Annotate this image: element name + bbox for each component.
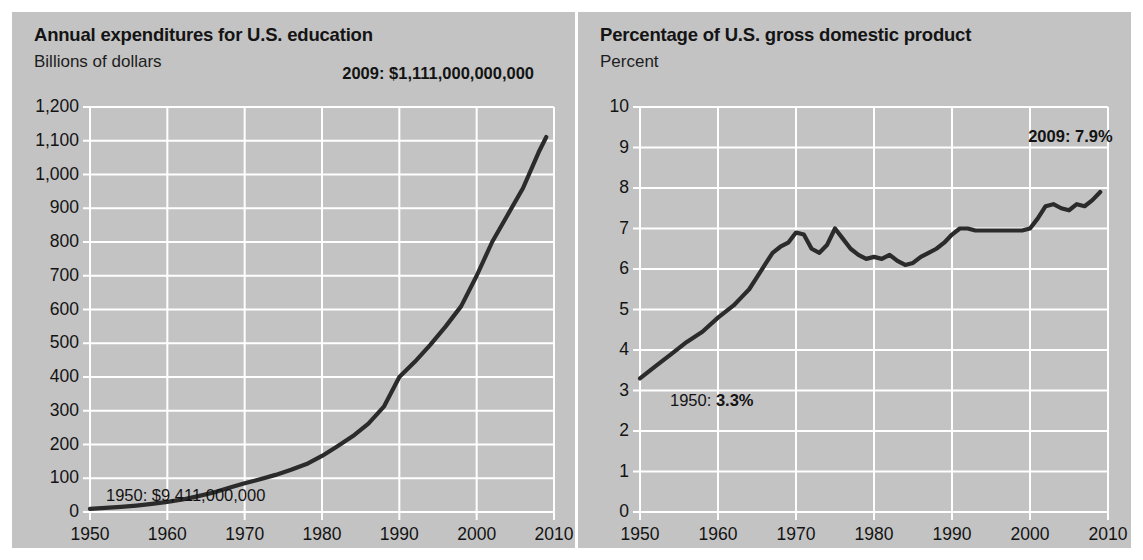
y-axis-tick-label: 100: [12, 469, 79, 487]
y-axis-tick-label: 0: [578, 503, 629, 521]
y-axis-tick-label: 2: [578, 422, 629, 440]
x-axis-tick-label: 1980: [829, 526, 919, 544]
y-axis-tick-label: 1: [578, 463, 629, 481]
y-axis-tick-label: 5: [578, 301, 629, 319]
y-axis-tick-label: 1,200: [12, 98, 79, 116]
x-axis-tick-label: 1970: [751, 526, 841, 544]
x-axis-tick-label: 1950: [595, 526, 685, 544]
y-axis-tick-label: 0: [12, 503, 79, 521]
chart-panel-gdp: Percentage of U.S. gross domestic produc…: [578, 12, 1131, 548]
annotation-2009-gdp: 2009: 7.9%: [1028, 128, 1112, 145]
y-axis-tick-label: 10: [578, 98, 629, 116]
line-chart-gdp: [578, 12, 1131, 548]
annotation-1950-gdp-value: 3.3%: [716, 391, 754, 409]
y-axis-tick-label: 7: [578, 220, 629, 238]
y-axis-tick-label: 500: [12, 334, 79, 352]
y-axis-tick-label: 9: [578, 139, 629, 157]
y-axis-tick-label: 1,100: [12, 132, 79, 150]
annotation-2009-expenditure: 2009: $1,111,000,000,000: [342, 65, 534, 82]
y-axis-tick-label: 800: [12, 233, 79, 251]
y-axis-tick-label: 600: [12, 301, 79, 319]
y-axis-tick-label: 900: [12, 199, 79, 217]
y-axis-tick-label: 4: [578, 341, 629, 359]
y-axis-tick-label: 3: [578, 382, 629, 400]
figure-root: Annual expenditures for U.S. education B…: [0, 0, 1143, 560]
y-axis-tick-label: 700: [12, 267, 79, 285]
plot-area-left: 01002003004005006007008009001,0001,1001,…: [12, 12, 575, 548]
x-axis-tick-label: 1990: [907, 526, 997, 544]
x-axis-tick-label: 2010: [1063, 526, 1143, 544]
y-axis-tick-label: 400: [12, 368, 79, 386]
annotation-1950-expenditure: 1950: $9,411,000,000: [106, 487, 265, 504]
chart-panel-education: Annual expenditures for U.S. education B…: [12, 12, 575, 548]
annotation-1950-gdp-prefix: 1950:: [670, 391, 716, 409]
x-axis-tick-label: 2000: [985, 526, 1075, 544]
x-axis-tick-label: 1960: [673, 526, 763, 544]
annotation-1950-gdp: 1950: 3.3%: [670, 392, 753, 409]
data-series-line: [90, 137, 546, 509]
line-chart-education: [12, 12, 575, 548]
y-axis-tick-label: 8: [578, 179, 629, 197]
y-axis-tick-label: 6: [578, 260, 629, 278]
y-axis-tick-label: 1,000: [12, 166, 79, 184]
y-axis-tick-label: 200: [12, 436, 79, 454]
plot-area-right: 012345678910 195019601970198019902000201…: [578, 12, 1131, 548]
y-axis-tick-label: 300: [12, 402, 79, 420]
